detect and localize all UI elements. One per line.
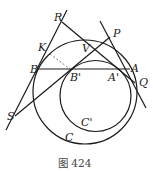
- line-right-tangent: [100, 21, 146, 108]
- label-p: P: [112, 27, 121, 40]
- line-sp: [15, 37, 110, 116]
- label-s: S: [7, 110, 15, 123]
- label-b-prime: B': [69, 71, 81, 84]
- label-q: Q: [139, 76, 148, 89]
- figure-caption: 图 424: [58, 157, 92, 169]
- label-a: A: [130, 62, 139, 75]
- label-v: V: [82, 42, 91, 55]
- label-b: B: [29, 63, 38, 76]
- label-c-prime: C': [81, 116, 92, 129]
- label-r: R: [53, 11, 62, 24]
- label-a-prime: A': [107, 71, 119, 84]
- dashed-kb-prime: [50, 54, 70, 69]
- geometry-figure-424: R K B S V P B' A' A Q C' C 图 424: [0, 0, 153, 172]
- label-c: C: [65, 131, 74, 144]
- label-k: K: [37, 41, 47, 54]
